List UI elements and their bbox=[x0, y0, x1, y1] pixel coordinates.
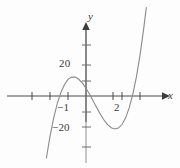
cubic-function-plot bbox=[0, 0, 180, 168]
x-tick-label-minus-1: −1 bbox=[57, 101, 69, 113]
chart-figure: 20 −20 −1 2 y x bbox=[0, 0, 180, 168]
x-tick-label-2: 2 bbox=[114, 101, 120, 113]
y-tick-label-20: 20 bbox=[59, 57, 70, 69]
y-axis-label: y bbox=[88, 10, 93, 22]
y-tick-label-minus-20: −20 bbox=[52, 121, 70, 133]
cubic-curve bbox=[46, 8, 146, 158]
x-axis-label: x bbox=[168, 89, 173, 101]
y-axis-arrowhead bbox=[82, 22, 90, 30]
